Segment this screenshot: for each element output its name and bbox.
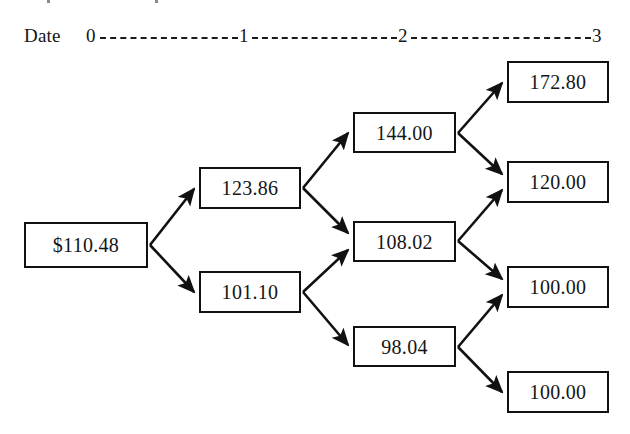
edge-uu-to-uud [458, 133, 502, 174]
node-terminal-4: 100.00 [507, 371, 609, 413]
node-up-down-date2: 108.02 [353, 221, 456, 262]
node-up-up-date2: 144.00 [353, 112, 456, 153]
edge-dd-to-ddd [458, 347, 502, 392]
edge-root-to-u [150, 189, 194, 245]
node-down-down-date2: 98.04 [353, 326, 456, 367]
edge-ud-to-uud [458, 190, 502, 241]
node-root: $110.48 [24, 222, 148, 268]
edge-uu-to-uuu [458, 83, 502, 133]
node-down-date1: 101.10 [199, 271, 301, 313]
edge-u-to-ud [303, 188, 348, 233]
edge-d-to-ud [303, 250, 348, 292]
edge-root-to-d [150, 245, 194, 292]
node-terminal-3: 100.00 [507, 266, 609, 308]
node-terminal-2: 120.00 [507, 161, 609, 203]
edge-u-to-uu [303, 133, 348, 188]
node-terminal-1: 172.80 [507, 61, 609, 103]
edge-dd-to-udd [458, 295, 502, 347]
binomial-tree-diagram: Date 0 1 2 3 [0, 0, 630, 434]
edge-d-to-dd [303, 292, 348, 345]
edge-ud-to-udd [458, 241, 502, 279]
node-up-date1: 123.86 [199, 167, 301, 209]
